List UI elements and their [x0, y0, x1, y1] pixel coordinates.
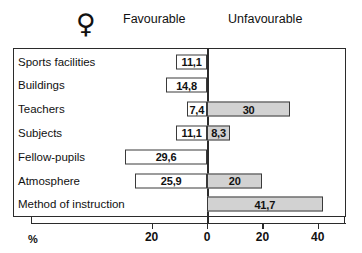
bar-value-label: 25,9: [161, 175, 182, 187]
axis-tick-end-left: [31, 217, 32, 224]
bar-row: Teachers7,430: [0, 98, 362, 121]
bar-row: Method of instruction41,7: [0, 193, 362, 216]
x-axis-line: [31, 223, 346, 224]
axis-tick-label: 20: [256, 230, 269, 244]
bar-value-label: 14,8: [176, 79, 197, 91]
bar-favourable: 11,1: [176, 125, 207, 140]
bar-value-label: 8,3: [211, 127, 226, 139]
bar-value-label: 30: [243, 103, 255, 115]
bar-value-label: 29,6: [156, 151, 177, 163]
category-label: Atmosphere: [18, 175, 80, 187]
bar-row: Buildings14,8: [0, 74, 362, 97]
legend-label-favourable: Favourable: [123, 12, 186, 26]
legend-label-unfavourable: Unfavourable: [228, 12, 302, 26]
axis-tick: [152, 223, 153, 229]
bar-unfavourable: 41,7: [207, 197, 323, 212]
bar-row: Atmosphere25,920: [0, 169, 362, 192]
bar-value-label: 41,7: [254, 198, 275, 210]
axis-tick-label: 0: [204, 230, 211, 244]
female-venus-symbol: ♀: [72, 4, 100, 44]
bar-favourable: 29,6: [125, 149, 207, 164]
category-label: Subjects: [18, 127, 62, 139]
axis-tick: [262, 223, 263, 229]
bar-favourable: 14,8: [166, 78, 207, 93]
category-label: Method of instruction: [18, 198, 125, 210]
axis-tick-end-right: [344, 217, 345, 224]
bar-row: Sports facilities11,1: [0, 50, 362, 73]
axis-tick: [318, 223, 319, 229]
chart-container: ♀ Favourable Unfavourable Sports facilit…: [0, 0, 362, 253]
bar-value-label: 7,4: [189, 103, 204, 115]
bar-favourable: 11,1: [176, 54, 207, 69]
category-label: Sports facilities: [18, 56, 95, 68]
bar-value-label: 11,1: [182, 56, 202, 68]
axis-tick-label: 40: [311, 230, 324, 244]
category-label: Fellow-pupils: [18, 151, 85, 163]
category-label: Teachers: [18, 103, 65, 115]
bar-unfavourable: 20: [207, 173, 262, 188]
bar-row: Fellow-pupils29,6: [0, 145, 362, 168]
bar-favourable: 7,4: [187, 102, 207, 117]
axis-unit-label: %: [28, 233, 38, 245]
bar-row: Subjects11,18,3: [0, 121, 362, 144]
bar-favourable: 25,9: [135, 173, 207, 188]
bar-unfavourable: 8,3: [207, 125, 230, 140]
bar-value-label: 20: [229, 175, 241, 187]
category-label: Buildings: [18, 79, 65, 91]
bar-value-label: 11,1: [182, 127, 202, 139]
bar-unfavourable: 30: [207, 102, 290, 117]
axis-tick: [207, 223, 208, 229]
axis-tick-label: 20: [145, 230, 158, 244]
